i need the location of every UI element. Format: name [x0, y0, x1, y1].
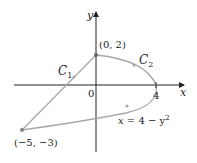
point-neg5-neg3 — [20, 128, 24, 132]
diagram-canvas: y x 0 4 (0, 2) (−5, −3) C1 C2 x = 4 − y2 — [0, 0, 197, 163]
point-label-neg5-neg3: (−5, −3) — [14, 137, 58, 148]
x-axis-label: x — [180, 86, 187, 99]
y-axis-label: y — [86, 9, 94, 22]
c2-label: C2 — [139, 53, 153, 69]
parabola-equation: x = 4 − y2 — [118, 114, 170, 126]
c2-direction-marker-lower — [125, 104, 128, 107]
origin-label: 0 — [88, 88, 94, 99]
c2-direction-marker-upper — [132, 63, 135, 66]
c1-label: C1 — [58, 64, 72, 80]
point-label-0-2: (0, 2) — [99, 39, 126, 50]
x-tick-label-4: 4 — [153, 90, 159, 101]
point-0-2 — [94, 53, 98, 57]
c1-direction-marker — [72, 75, 75, 78]
